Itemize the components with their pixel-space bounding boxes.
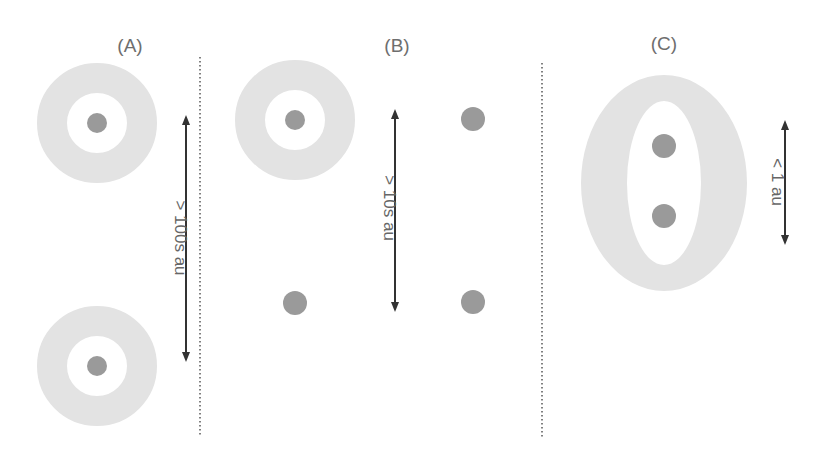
star-icon xyxy=(652,134,676,158)
star-icon xyxy=(461,290,485,314)
distance-label-a: > 100s au xyxy=(171,200,190,275)
distance-label-b: > 10s au xyxy=(380,175,399,241)
distance-label-c: < 1 au xyxy=(768,158,787,206)
star-with-disk xyxy=(250,75,340,165)
panel-a-label: (A) xyxy=(117,35,142,56)
circumbinary-disk xyxy=(581,75,747,291)
panel-c: (C) < 1 au xyxy=(581,33,787,291)
panel-b-label: (B) xyxy=(384,35,409,56)
star-with-disk-top xyxy=(52,78,142,168)
panel-a: (A) > 100s au xyxy=(52,35,190,411)
star-icon xyxy=(652,204,676,228)
star-icon xyxy=(87,113,107,133)
star-icon xyxy=(283,291,307,315)
star-icon xyxy=(87,356,107,376)
panel-c-label: (C) xyxy=(651,33,677,54)
panel-b: (B) > 10s au xyxy=(250,35,485,315)
star-icon xyxy=(285,110,305,130)
binary-disk-diagram: (A) > 100s au (B) > 10s au (C) xyxy=(0,0,822,461)
star-with-disk-bottom xyxy=(52,321,142,411)
star-icon xyxy=(461,107,485,131)
